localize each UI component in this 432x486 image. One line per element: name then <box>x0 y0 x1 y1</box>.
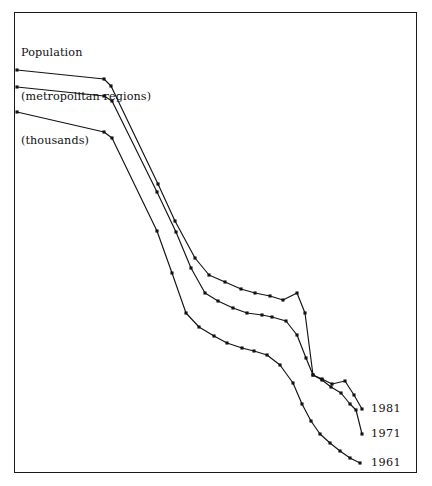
series-label-1961: 1961 <box>371 456 401 469</box>
data-point-marker <box>223 280 226 283</box>
series-1971 <box>15 85 363 435</box>
data-point-marker <box>360 407 363 410</box>
data-point-marker <box>197 325 200 328</box>
series-label-1981: 1981 <box>371 402 401 415</box>
data-point-marker <box>268 294 271 297</box>
data-point-marker <box>311 373 314 376</box>
series-1961 <box>15 110 361 464</box>
data-point-marker <box>15 110 18 113</box>
series-label-1971: 1971 <box>371 427 401 440</box>
data-point-marker <box>352 393 355 396</box>
data-point-marker <box>245 311 248 314</box>
data-point-marker <box>295 333 298 336</box>
data-point-marker <box>252 349 255 352</box>
data-point-marker <box>348 402 351 405</box>
data-point-marker <box>110 99 113 102</box>
data-point-marker <box>203 291 206 294</box>
data-point-marker <box>309 419 312 422</box>
data-point-marker <box>284 319 287 322</box>
data-point-marker <box>265 353 268 356</box>
data-point-marker <box>155 229 158 232</box>
data-point-marker <box>303 311 306 314</box>
data-point-marker <box>318 432 321 435</box>
data-point-marker <box>155 190 158 193</box>
data-point-marker <box>330 382 333 385</box>
data-point-marker <box>320 378 323 381</box>
chart-figure: Population (metropolitan regions) (thous… <box>0 0 432 486</box>
data-point-marker <box>328 441 331 444</box>
data-point-marker <box>339 391 342 394</box>
data-point-marker <box>240 346 243 349</box>
data-point-marker <box>300 402 303 405</box>
data-point-marker <box>304 356 307 359</box>
data-point-marker <box>189 266 192 269</box>
series-line-1961 <box>17 112 360 463</box>
data-point-marker <box>270 315 273 318</box>
data-point-marker <box>354 408 357 411</box>
data-point-marker <box>173 219 176 222</box>
data-point-marker <box>343 379 346 382</box>
data-point-marker <box>102 130 105 133</box>
data-point-marker <box>110 136 113 139</box>
data-point-marker <box>156 182 159 185</box>
data-point-marker <box>15 68 18 71</box>
data-point-marker <box>216 299 219 302</box>
chart-plot-area <box>0 0 432 486</box>
data-point-marker <box>225 341 228 344</box>
data-point-marker <box>193 256 196 259</box>
data-point-marker <box>348 456 351 459</box>
data-point-marker <box>278 363 281 366</box>
series-1981 <box>15 68 363 410</box>
data-point-marker <box>338 449 341 452</box>
data-point-marker <box>281 298 284 301</box>
series-line-1971 <box>17 87 362 434</box>
data-point-marker <box>212 334 215 337</box>
series-line-1981 <box>17 70 362 409</box>
data-point-marker <box>260 313 263 316</box>
data-point-marker <box>231 306 234 309</box>
series-layer <box>15 68 363 464</box>
data-point-marker <box>184 311 187 314</box>
data-point-marker <box>109 84 112 87</box>
data-point-marker <box>358 461 361 464</box>
data-point-marker <box>170 271 173 274</box>
data-point-marker <box>239 287 242 290</box>
data-point-marker <box>15 85 18 88</box>
data-point-marker <box>102 77 105 80</box>
data-point-marker <box>295 291 298 294</box>
data-point-marker <box>207 273 210 276</box>
data-point-marker <box>329 385 332 388</box>
data-point-marker <box>102 94 105 97</box>
data-point-marker <box>253 291 256 294</box>
data-point-marker <box>360 432 363 435</box>
data-point-marker <box>291 381 294 384</box>
data-point-marker <box>174 230 177 233</box>
